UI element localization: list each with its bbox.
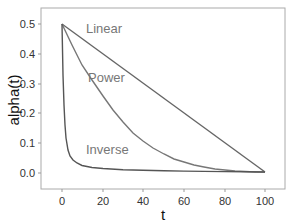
y-tick: 0.5 <box>20 18 35 30</box>
y-axis-label: alpha(t) <box>5 75 22 126</box>
x-tick: 100 <box>256 195 274 207</box>
label-power: Power <box>88 70 126 85</box>
x-tick: 20 <box>97 195 109 207</box>
chart: 0.5 0.4 0.3 0.2 0.1 0.0 0 20 40 60 80 10… <box>0 0 293 223</box>
y-tick: 0.4 <box>20 48 35 60</box>
y-tick: 0.1 <box>20 137 35 149</box>
y-tick: 0.0 <box>20 167 35 179</box>
x-tick: 60 <box>178 195 190 207</box>
x-tick: 80 <box>219 195 231 207</box>
x-tick: 0 <box>59 195 65 207</box>
x-tick: 40 <box>137 195 149 207</box>
x-axis-label: t <box>161 206 166 223</box>
label-linear: Linear <box>86 21 123 36</box>
label-inverse: Inverse <box>86 142 129 157</box>
